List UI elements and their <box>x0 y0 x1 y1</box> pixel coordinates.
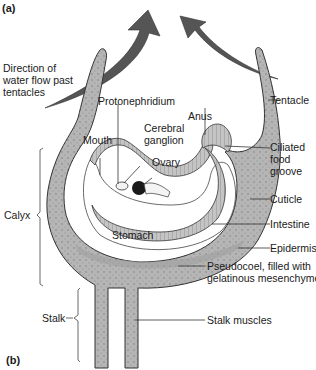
label-pseudocoel: Pseudocoel, filled with gelatinous mesen… <box>207 260 316 284</box>
panel-label-b: (b) <box>6 354 20 366</box>
label-intestine: Intestine <box>270 218 310 230</box>
label-ovary: Ovary <box>152 156 180 168</box>
label-stomach: Stomach <box>112 229 153 241</box>
label-mouth: Mouth <box>83 134 112 146</box>
label-epidermis: Epidermis <box>270 242 316 254</box>
ovary <box>132 181 170 197</box>
stalk-bracket <box>74 288 80 362</box>
calyx-bracket <box>37 148 43 286</box>
label-cuticle: Cuticle <box>270 193 302 205</box>
panel-label-a: (a) <box>2 2 15 14</box>
entoproct-diagram: (a) (b) Direction of water flow past ten… <box>0 0 316 370</box>
label-cerebral-ganglion: Cerebral ganglion <box>144 122 184 146</box>
label-stalk: Stalk <box>42 312 65 324</box>
label-stalk-muscles: Stalk muscles <box>207 314 272 326</box>
label-anus: Anus <box>188 110 212 122</box>
label-protonephridium: Protonephridium <box>98 95 175 107</box>
label-tentacle: Tentacle <box>270 94 309 106</box>
label-direction-of-water-flow: Direction of water flow past tentacles <box>3 62 73 98</box>
label-ciliated-food-groove: Ciliated food groove <box>270 141 305 177</box>
label-calyx: Calyx <box>4 209 30 221</box>
